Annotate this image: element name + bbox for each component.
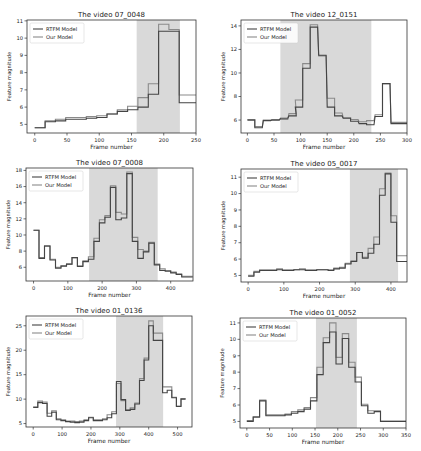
x-tick-label: 50 bbox=[271, 137, 278, 143]
x-tick-label: 0 bbox=[32, 285, 35, 291]
y-tick-label: 7 bbox=[20, 87, 23, 93]
y-tick-label: 6 bbox=[20, 104, 23, 110]
chart-panel-3: 0100200300400567891011The video 05_0017F… bbox=[220, 160, 408, 300]
chart-title: The video 07_0008 bbox=[75, 159, 143, 167]
legend: RTFM ModelOur Model bbox=[244, 23, 298, 43]
y-tick-label: 20 bbox=[15, 347, 22, 353]
y-tick-label: 6 bbox=[19, 264, 22, 270]
y-tick-label: 7 bbox=[233, 385, 236, 391]
x-axis-label: Frame number bbox=[88, 292, 131, 298]
x-tick-label: 400 bbox=[166, 285, 176, 291]
x-tick-label: 0 bbox=[246, 286, 249, 292]
legend: RTFM ModelOur Model bbox=[29, 319, 83, 339]
y-tick-label: 10 bbox=[16, 35, 23, 41]
x-tick-label: 150 bbox=[322, 137, 332, 143]
y-tick-label: 6 bbox=[234, 256, 237, 262]
x-tick-label: 200 bbox=[349, 137, 359, 143]
x-axis-label: Frame number bbox=[90, 144, 133, 150]
chart-title: The video 05_0017 bbox=[290, 160, 358, 168]
x-tick-label: 0 bbox=[245, 432, 248, 438]
legend-ours-label: Our Model bbox=[46, 34, 73, 40]
x-tick-label: 250 bbox=[191, 137, 201, 143]
y-axis-label: Feature magnitude bbox=[5, 200, 12, 249]
chart-panel-1: 05010015020025030068101214The video 12_0… bbox=[220, 11, 412, 151]
x-tick-label: 50 bbox=[266, 432, 273, 438]
x-tick-label: 300 bbox=[115, 431, 125, 437]
legend: RTFM ModelOur Model bbox=[29, 171, 83, 191]
legend: RTFM ModelOur Model bbox=[30, 23, 84, 43]
x-axis-label: Frame number bbox=[303, 144, 346, 150]
x-tick-label: 350 bbox=[401, 432, 411, 438]
x-tick-label: 500 bbox=[173, 431, 183, 437]
legend-ours-label: Our Model bbox=[45, 182, 72, 188]
y-tick-label: 8 bbox=[234, 93, 237, 99]
chart-panel-2: 0100200300400681012141618The video 07_00… bbox=[5, 159, 193, 299]
y-tick-label: 12 bbox=[15, 216, 22, 222]
y-axis-label: Feature magnitude bbox=[220, 201, 227, 250]
y-tick-label: 9 bbox=[20, 52, 23, 58]
chart-title: The video 12_0151 bbox=[290, 11, 358, 19]
x-tick-label: 150 bbox=[310, 432, 320, 438]
legend-ours-label: Our Model bbox=[45, 330, 72, 336]
y-tick-label: 18 bbox=[15, 167, 22, 173]
legend-rtfm-label: RTFM Model bbox=[45, 174, 76, 180]
y-tick-label: 10 bbox=[15, 232, 22, 238]
legend: RTFM ModelOur Model bbox=[243, 321, 297, 341]
x-tick-label: 250 bbox=[356, 432, 366, 438]
y-tick-label: 15 bbox=[15, 371, 22, 377]
y-axis-label: Feature magnitude bbox=[6, 52, 13, 101]
x-tick-label: 400 bbox=[144, 431, 154, 437]
x-tick-label: 300 bbox=[350, 286, 360, 292]
y-tick-label: 8 bbox=[234, 223, 237, 229]
chart-panel-0: 050100150200250567891011The video 07_004… bbox=[6, 11, 201, 151]
y-tick-label: 9 bbox=[233, 353, 236, 359]
y-tick-label: 11 bbox=[229, 320, 236, 326]
x-tick-label: 100 bbox=[57, 431, 67, 437]
x-tick-label: 250 bbox=[375, 137, 385, 143]
legend-ours-label: Our Model bbox=[260, 34, 287, 40]
y-tick-label: 10 bbox=[230, 70, 237, 76]
chart-title: The video 07_0048 bbox=[77, 11, 145, 19]
y-tick-label: 11 bbox=[230, 174, 237, 180]
x-tick-label: 150 bbox=[127, 137, 137, 143]
y-tick-label: 6 bbox=[234, 117, 237, 123]
y-axis-label: Feature magnitude bbox=[220, 52, 227, 101]
y-tick-label: 7 bbox=[234, 239, 237, 245]
y-tick-label: 8 bbox=[233, 369, 236, 375]
y-tick-label: 10 bbox=[15, 396, 22, 402]
chart-panel-4: 0100200300400500510152025The video 01_01… bbox=[5, 307, 192, 445]
legend-rtfm-label: RTFM Model bbox=[260, 26, 291, 32]
y-tick-label: 16 bbox=[15, 183, 22, 189]
x-tick-label: 100 bbox=[296, 137, 306, 143]
y-axis-label: Feature magnitude bbox=[219, 348, 226, 397]
x-axis-label: Frame number bbox=[302, 439, 345, 445]
legend-ours-label: Our Model bbox=[259, 332, 286, 338]
x-axis-label: Frame number bbox=[88, 438, 131, 444]
y-tick-label: 14 bbox=[230, 23, 237, 29]
chart-title: The video 01_0136 bbox=[75, 307, 143, 315]
y-tick-label: 5 bbox=[234, 272, 237, 278]
x-tick-label: 200 bbox=[315, 286, 325, 292]
x-tick-label: 0 bbox=[32, 431, 35, 437]
legend-rtfm-label: RTFM Model bbox=[259, 324, 290, 330]
y-axis-label: Feature magnitude bbox=[5, 347, 12, 396]
x-tick-label: 100 bbox=[287, 432, 297, 438]
y-tick-label: 10 bbox=[229, 336, 236, 342]
x-tick-label: 400 bbox=[386, 286, 396, 292]
x-tick-label: 200 bbox=[97, 285, 107, 291]
y-tick-label: 8 bbox=[20, 69, 23, 75]
y-tick-label: 6 bbox=[233, 402, 236, 408]
y-tick-label: 9 bbox=[234, 207, 237, 213]
legend-rtfm-label: RTFM Model bbox=[260, 175, 291, 181]
x-tick-label: 300 bbox=[402, 137, 412, 143]
y-tick-label: 8 bbox=[19, 248, 22, 254]
chart-panel-5: 050100150200250300350567891011The video … bbox=[219, 309, 411, 446]
x-tick-label: 200 bbox=[159, 137, 169, 143]
x-tick-label: 100 bbox=[63, 285, 73, 291]
x-tick-label: 0 bbox=[33, 137, 36, 143]
x-tick-label: 200 bbox=[333, 432, 343, 438]
x-tick-label: 100 bbox=[279, 286, 289, 292]
x-tick-label: 300 bbox=[131, 285, 141, 291]
legend: RTFM ModelOur Model bbox=[244, 172, 298, 192]
y-tick-label: 25 bbox=[15, 323, 22, 329]
